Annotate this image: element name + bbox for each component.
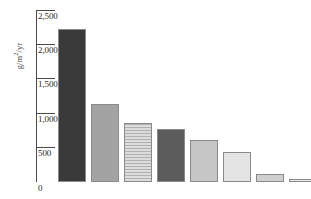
bar [256,174,284,182]
y-axis-title-pre: g/m [14,56,24,70]
bar-chart: g/m2/yr 2,5002,0001,5001,0005000 [0,0,311,199]
bar [58,29,86,182]
y-axis-title: g/m2/yr [12,26,26,86]
bar [223,152,251,182]
bar [91,104,119,182]
y-axis-title-superscript: 2 [12,52,19,55]
y-axis-title-post: /yr [14,43,24,53]
y-axis-tick-label: 0 [38,183,42,193]
bar [124,123,152,182]
bar [190,140,218,182]
bar [157,129,185,182]
plot-area [37,10,309,182]
bar [289,179,311,182]
